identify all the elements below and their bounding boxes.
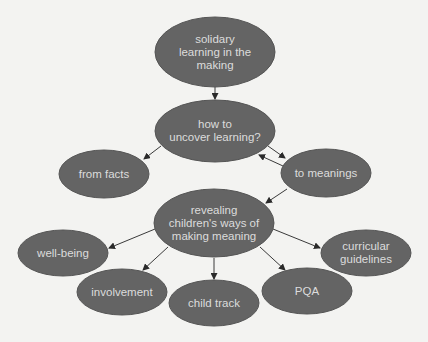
diagram-svg	[0, 0, 428, 342]
arrow-how-to-meanings	[268, 146, 285, 158]
arrow-revealing-to-wellbeing	[109, 229, 155, 248]
node-facts	[59, 150, 149, 198]
concept-map: solidary learning in the makinghow to un…	[0, 0, 428, 342]
arrow-revealing-to-curricular	[273, 229, 320, 248]
node-meanings	[281, 149, 371, 197]
node-pqa	[262, 268, 352, 314]
arrow-how-to-facts	[144, 146, 161, 159]
node-childtrack	[169, 280, 259, 326]
node-curricular	[321, 230, 411, 276]
arrow-meanings-to-revealing	[266, 189, 287, 203]
arrow-revealing-to-pqa	[260, 247, 285, 270]
arrow-meanings-to-how	[259, 155, 283, 166]
nodes	[18, 17, 411, 326]
node-solidary	[155, 17, 275, 87]
arrow-revealing-to-involvement	[143, 247, 168, 270]
node-revealing	[154, 189, 274, 257]
node-involvement	[77, 269, 167, 315]
node-wellbeing	[18, 230, 108, 276]
node-how	[155, 100, 275, 162]
